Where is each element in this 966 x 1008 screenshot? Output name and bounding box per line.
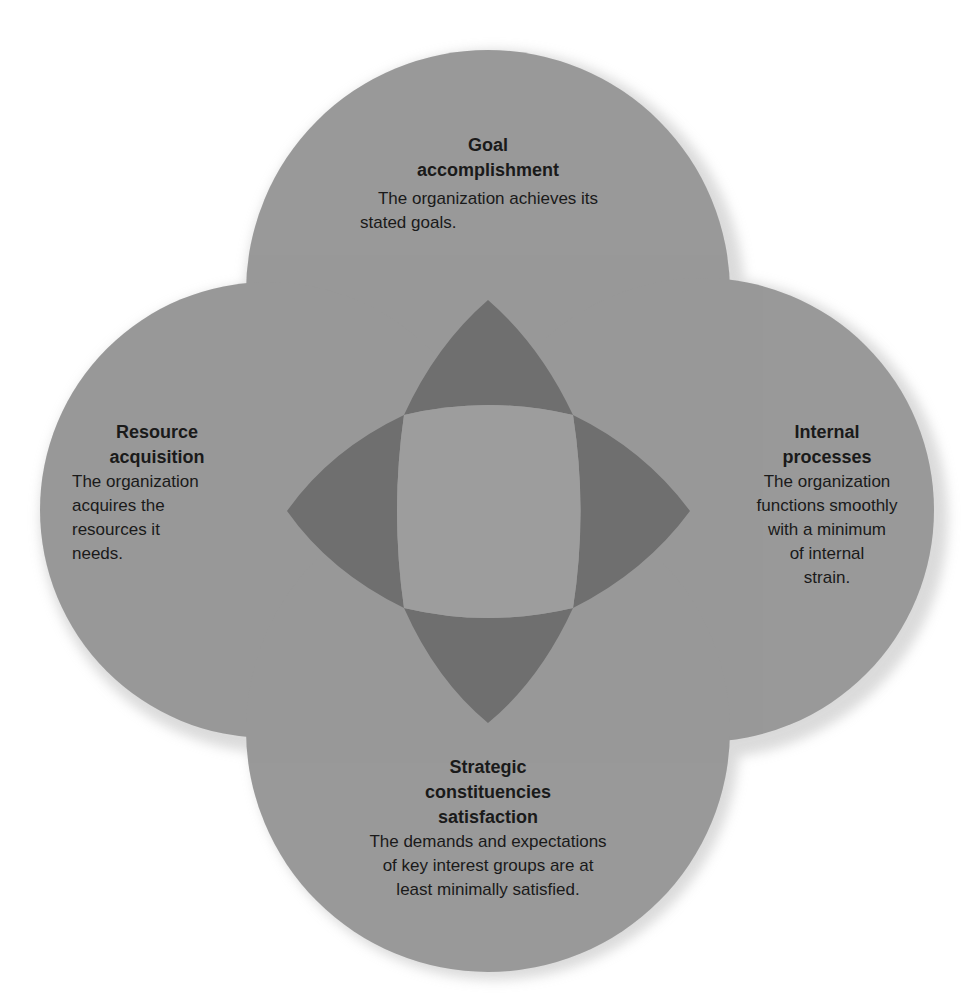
title-line: acquisition <box>72 445 242 470</box>
desc-line: needs. <box>72 542 242 566</box>
desc-line: least minimally satisfied. <box>318 878 658 902</box>
label-strategic-constituencies: Strategic constituencies satisfaction Th… <box>318 755 658 902</box>
desc-line: strain. <box>722 566 932 590</box>
desc-line: resources it <box>72 518 242 542</box>
desc-line: stated goals. <box>338 211 638 235</box>
title-line: processes <box>722 445 932 470</box>
label-internal-processes: Internal processes The organization func… <box>722 420 932 590</box>
title-line: constituencies <box>318 780 658 805</box>
title-line: Resource <box>72 420 242 445</box>
desc-line: acquires the <box>72 494 242 518</box>
desc-internal-processes: The organization functions smoothly with… <box>722 470 932 590</box>
desc-line: The organization <box>72 470 242 494</box>
desc-line: of key interest groups are at <box>318 854 658 878</box>
desc-resource-acquisition: The organization acquires the resources … <box>72 470 242 566</box>
title-goal-accomplishment: Goal accomplishment <box>338 133 638 183</box>
desc-strategic-constituencies: The demands and expectations of key inte… <box>318 830 658 902</box>
title-line: Goal <box>338 133 638 158</box>
desc-line: The demands and expectations <box>318 830 658 854</box>
title-line: satisfaction <box>318 805 658 830</box>
title-line: Internal <box>722 420 932 445</box>
label-resource-acquisition: Resource acquisition The organization ac… <box>72 420 242 566</box>
desc-line: The organization <box>722 470 932 494</box>
title-resource-acquisition: Resource acquisition <box>72 420 242 470</box>
title-line: Strategic <box>318 755 658 780</box>
title-internal-processes: Internal processes <box>722 420 932 470</box>
title-line: accomplishment <box>338 158 638 183</box>
desc-line: functions smoothly <box>722 494 932 518</box>
title-strategic-constituencies: Strategic constituencies satisfaction <box>318 755 658 830</box>
desc-goal-accomplishment: The organization achieves its stated goa… <box>338 187 638 235</box>
label-goal-accomplishment: Goal accomplishment The organization ach… <box>338 133 638 235</box>
desc-line: of internal <box>722 542 932 566</box>
desc-line: with a minimum <box>722 518 932 542</box>
desc-line: The organization achieves its <box>338 187 638 211</box>
center-region <box>397 405 581 618</box>
